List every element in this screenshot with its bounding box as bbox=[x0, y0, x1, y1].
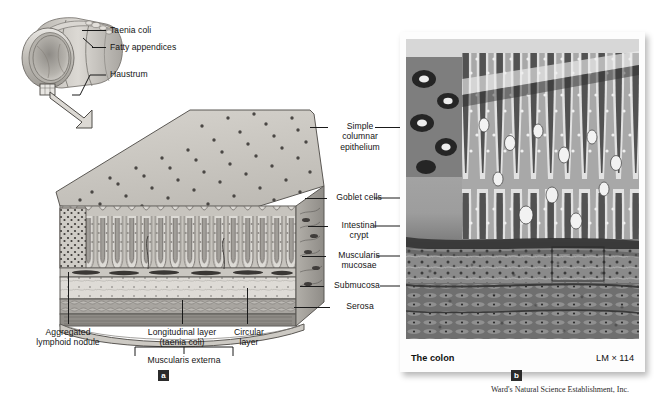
leader-goblet-cells-left bbox=[305, 198, 327, 199]
leader-intestinal-crypt-left bbox=[308, 226, 328, 227]
label-simple-columnar-epithelium: Simple columnar epithelium bbox=[329, 121, 391, 152]
leader-longitudinal-layer bbox=[182, 300, 183, 324]
leader-haustrum-hook bbox=[72, 73, 108, 97]
label-fatty-appendices: Fatty appendices bbox=[110, 42, 176, 52]
leader-fatty-appendices-hook bbox=[74, 36, 94, 50]
leader-circular-layer bbox=[247, 288, 248, 324]
leader-submucosa-left bbox=[300, 286, 324, 287]
leader-fatty-appendices bbox=[92, 47, 106, 48]
leader-serosa-left bbox=[294, 307, 330, 308]
leader-taenia-coli bbox=[82, 30, 106, 31]
label-muscularis-externa: Muscularis externa bbox=[128, 355, 240, 365]
label-aggregated-lymphoid-nodule: Aggregated lymphoid nodule bbox=[20, 327, 116, 348]
image-credit: Ward's Natural Science Establishment, In… bbox=[466, 385, 654, 394]
colon-wall-block-diagram bbox=[52, 96, 352, 326]
figure-colon-histology: Taenia coli Fatty appendices Haustrum Si… bbox=[0, 0, 654, 405]
label-taenia-coli: Taenia coli bbox=[110, 25, 151, 35]
micrograph-magnification: LM × 114 bbox=[596, 353, 634, 363]
micrograph-caption: The colon bbox=[411, 353, 454, 363]
panel-b-badge: b bbox=[511, 370, 522, 381]
label-haustrum: Haustrum bbox=[110, 69, 148, 79]
micrograph-panel: The colon LM × 114 bbox=[400, 32, 645, 372]
panel-a-badge: a bbox=[158, 370, 169, 381]
leader-aggregated-lymphoid-nodule bbox=[68, 272, 69, 324]
leader-simple-columnar-epithelium-left bbox=[310, 127, 328, 128]
micrograph-caption-bar: The colon LM × 114 bbox=[400, 346, 645, 372]
micrograph-image bbox=[406, 39, 639, 339]
leader-muscularis-mucosae-left bbox=[302, 256, 326, 257]
label-serosa: Serosa bbox=[330, 301, 390, 311]
